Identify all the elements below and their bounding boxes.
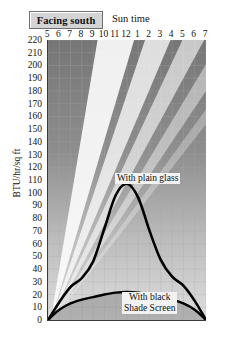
chart-root: Facing south Sun time 567891011121234567…: [0, 0, 232, 339]
y-tick-150: 150: [28, 124, 42, 134]
x-tick-1: 1: [135, 29, 140, 39]
x-tick-9: 9: [90, 29, 95, 39]
y-axis-tick-labels: 0102030405060708090100110120130140150160…: [0, 36, 45, 326]
y-tick-50: 50: [33, 251, 43, 261]
shade-screen-line-1: With black: [129, 292, 171, 302]
y-tick-70: 70: [33, 226, 43, 236]
y-tick-130: 130: [28, 150, 42, 160]
x-tick-6: 6: [56, 29, 61, 39]
y-tick-90: 90: [33, 200, 43, 210]
x-tick-12: 12: [121, 29, 131, 39]
shade-screen-line-2: Shade Screen: [124, 303, 175, 313]
y-tick-200: 200: [28, 60, 42, 70]
x-tick-10: 10: [99, 29, 109, 39]
facing-south-badge: Facing south: [29, 11, 103, 29]
y-tick-190: 190: [28, 73, 42, 83]
y-tick-120: 120: [28, 162, 42, 172]
series-label-shade-screen: With black Shade Screen: [122, 292, 177, 314]
y-tick-160: 160: [28, 111, 42, 121]
y-tick-180: 180: [28, 86, 42, 96]
y-tick-100: 100: [28, 188, 42, 198]
x-tick-6: 6: [191, 29, 196, 39]
x-axis-title: Sun time: [112, 13, 150, 24]
y-tick-60: 60: [33, 239, 43, 249]
x-tick-7: 7: [203, 29, 208, 39]
x-tick-4: 4: [169, 29, 174, 39]
series-label-plain-glass: With plain glass: [115, 173, 180, 184]
y-tick-140: 140: [28, 137, 42, 147]
y-tick-20: 20: [33, 290, 43, 300]
y-tick-80: 80: [33, 213, 43, 223]
y-tick-0: 0: [37, 315, 42, 325]
x-tick-2: 2: [146, 29, 151, 39]
y-tick-110: 110: [28, 175, 42, 185]
x-tick-11: 11: [110, 29, 119, 39]
y-tick-40: 40: [33, 264, 43, 274]
y-tick-170: 170: [28, 99, 42, 109]
y-axis-title: BTU/hr/sq ft: [12, 128, 22, 218]
x-tick-8: 8: [78, 29, 83, 39]
x-tick-7: 7: [67, 29, 72, 39]
x-tick-5: 5: [180, 29, 185, 39]
x-tick-3: 3: [157, 29, 162, 39]
y-tick-10: 10: [33, 302, 43, 312]
y-tick-210: 210: [28, 48, 42, 58]
y-tick-30: 30: [33, 277, 43, 287]
y-tick-220: 220: [28, 35, 42, 45]
x-tick-5: 5: [45, 29, 50, 39]
